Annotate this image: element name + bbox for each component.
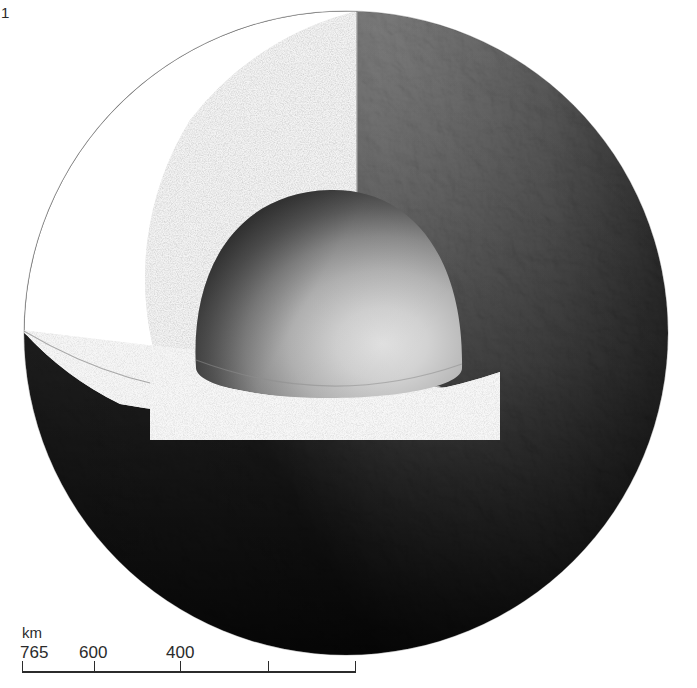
scale-bar-axis [0, 622, 400, 682]
cutaway-sphere-illustration [0, 0, 697, 688]
distance-scale-bar: km 765 600 400 [0, 622, 400, 682]
